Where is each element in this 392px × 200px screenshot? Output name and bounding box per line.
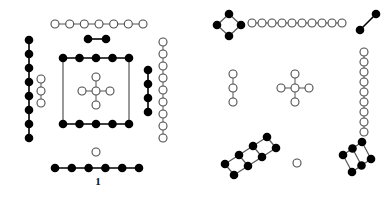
top-open-chain <box>248 19 346 27</box>
central-open-cross <box>277 70 313 106</box>
panel-1-label: 1 <box>83 176 113 187</box>
panel-2-graphic <box>196 0 392 200</box>
right-filled-column <box>144 66 153 117</box>
panel-1: 1 <box>0 0 196 200</box>
right-open-column <box>360 48 368 136</box>
bottom-right-filled-ladder <box>339 138 376 177</box>
top-open-chain <box>51 20 147 28</box>
central-open-cross <box>78 73 114 109</box>
top-right-filled-pair <box>356 10 381 35</box>
right-open-column <box>159 38 167 142</box>
panel-2: 2 <box>196 0 392 200</box>
left-filled-column <box>25 36 34 143</box>
bottom-centre-lone-open-node <box>293 159 301 167</box>
left-inner-open-column <box>37 75 45 107</box>
top-filled-pair <box>84 35 111 44</box>
bottom-left-filled-ladder <box>221 133 281 180</box>
panel-1-graphic <box>0 0 196 200</box>
bottom-filled-chain <box>51 164 144 173</box>
left-open-column <box>229 70 237 106</box>
bottom-lone-open-node <box>92 148 100 156</box>
top-left-filled-diamond <box>213 10 246 41</box>
figure-canvas: 1 <box>0 0 392 200</box>
